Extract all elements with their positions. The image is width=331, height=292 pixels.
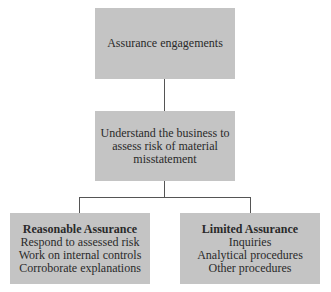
middle-box-line-3: misstatement [133, 153, 196, 166]
reasonable-assurance-item-3: Corroborate explanations [19, 262, 141, 275]
top-box-text: Assurance engagements [107, 37, 223, 50]
connector-horizontal [79, 197, 251, 198]
reasonable-assurance-box: Reasonable Assurance Respond to assessed… [10, 213, 150, 284]
middle-box-line-2: assess risk of material [112, 140, 218, 153]
reasonable-assurance-title: Reasonable Assurance [23, 223, 137, 236]
limited-assurance-title: Limited Assurance [202, 223, 298, 236]
connector-middle-down [164, 181, 165, 197]
limited-assurance-item-1: Inquiries [229, 236, 272, 249]
limited-assurance-item-2: Analytical procedures [197, 249, 303, 262]
top-box: Assurance engagements [95, 8, 235, 79]
connector-left-drop [79, 197, 80, 213]
reasonable-assurance-item-2: Work on internal controls [19, 249, 142, 262]
limited-assurance-box: Limited Assurance Inquiries Analytical p… [180, 213, 320, 284]
reasonable-assurance-item-1: Respond to assessed risk [21, 236, 140, 249]
connector-right-drop [250, 197, 251, 213]
middle-box: Understand the business to assess risk o… [95, 111, 235, 181]
middle-box-line-1: Understand the business to [101, 127, 230, 140]
limited-assurance-item-3: Other procedures [209, 262, 292, 275]
connector-top-middle [164, 79, 165, 111]
